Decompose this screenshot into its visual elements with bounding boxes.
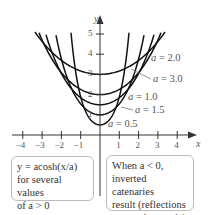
x-axis-label: x xyxy=(196,139,200,149)
y-tick-label: 3 xyxy=(88,69,93,78)
note-left-line-1: y = acosh(x/a) xyxy=(17,160,88,173)
note-left-line-2: for several values xyxy=(17,173,88,199)
note-left-line-3: of a > 0 xyxy=(17,199,88,212)
y-tick-label: 2 xyxy=(88,90,93,99)
x-tick-label: −4 xyxy=(16,141,26,150)
x-tick-label: 2 xyxy=(136,141,141,150)
label-a-0-5: a = 0.5 xyxy=(108,119,138,130)
note-box-negative-a: When a < 0, inverted catenaries result (… xyxy=(106,155,194,211)
y-tick-label: 5 xyxy=(88,29,93,38)
label-a-1-5: a = 1.5 xyxy=(135,105,165,116)
label-a-3-0: a = 3.0 xyxy=(153,74,183,85)
x-tick-label: 4 xyxy=(174,141,179,150)
note-right-line-2: inverted catenaries xyxy=(112,172,188,198)
note-right-line-4: across the x-axis) xyxy=(112,211,188,215)
y-tick-label: 4 xyxy=(88,49,93,58)
label-a-1-0: a = 1.0 xyxy=(128,92,158,103)
x-tick-label: 1 xyxy=(116,141,121,150)
label-a-2-0: a = 2.0 xyxy=(151,53,181,64)
x-tick-label: −2 xyxy=(54,141,64,150)
x-tick-label: −1 xyxy=(74,141,84,150)
note-right-line-3: result (reflections xyxy=(112,198,188,211)
note-box-positive-a: y = acosh(x/a) for several values of a >… xyxy=(11,156,94,201)
note-right-line-1: When a < 0, xyxy=(112,159,188,172)
x-tick-label: 3 xyxy=(155,141,160,150)
x-tick-label: −3 xyxy=(35,141,45,150)
y-axis-label: y xyxy=(94,14,98,24)
y-tick-label: 1 xyxy=(88,110,93,119)
